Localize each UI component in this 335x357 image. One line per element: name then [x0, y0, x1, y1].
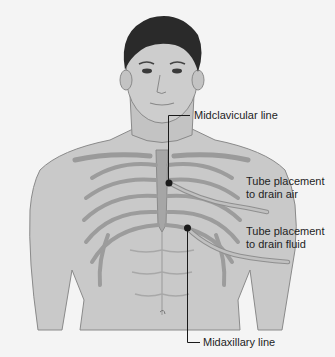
tube-fluid-label-line1: Tube placement: [246, 225, 324, 238]
right-ear: [192, 70, 204, 90]
left-ear: [120, 70, 132, 90]
sternum: [156, 150, 168, 232]
tube-air-label-line2: to drain air: [246, 188, 298, 201]
diagram-canvas: Midclavicular line Tube placement to dra…: [0, 0, 335, 357]
tube-fluid-label-line2: to drain fluid: [246, 238, 306, 251]
right-eye: [172, 69, 182, 74]
fluid-insertion-dot: [184, 225, 191, 232]
left-eye: [142, 69, 152, 74]
midclavicular-label: Midclavicular line: [194, 109, 278, 122]
tube-air-label-line1: Tube placement: [246, 175, 324, 188]
air-insertion-dot: [166, 180, 173, 187]
midaxillary-label: Midaxillary line: [203, 336, 275, 349]
